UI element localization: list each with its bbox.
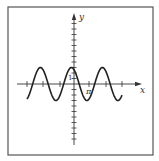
graph-canvas: x y 1 π: [0, 0, 159, 161]
graph-border: [8, 7, 153, 155]
x-axis-label: x: [140, 85, 145, 95]
function-graph: x y 1 π: [0, 0, 159, 161]
y-axis-arrow-icon: [72, 13, 76, 20]
y-unit-label: 1: [68, 74, 72, 82]
y-axis-label: y: [78, 12, 85, 22]
x-pi-label: π: [85, 87, 92, 96]
